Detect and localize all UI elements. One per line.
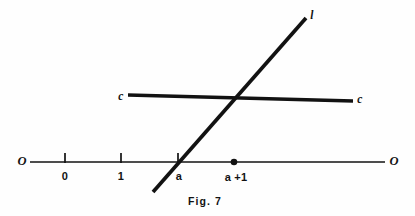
- figure-canvas: [0, 0, 415, 216]
- point-a-plus-one: [231, 159, 238, 166]
- axis-label-left-o: O: [17, 155, 26, 168]
- line-c-label-right: c: [357, 94, 362, 106]
- line-c: [128, 95, 353, 101]
- axis-label-right-o: O: [389, 155, 398, 168]
- tick-label-a: a: [176, 171, 182, 182]
- point-label-a-plus-one: a +1: [225, 172, 248, 183]
- line-l-label: l: [310, 10, 313, 22]
- figure-caption: Fig. 7: [188, 196, 222, 207]
- line-c-label-left: c: [118, 91, 123, 103]
- tick-label-one: 1: [118, 171, 124, 182]
- tick-label-zero: 0: [62, 171, 68, 182]
- line-l: [153, 18, 306, 192]
- figure-7-diagram: O O c c l 0 1 a a +1 Fig. 7: [0, 0, 415, 216]
